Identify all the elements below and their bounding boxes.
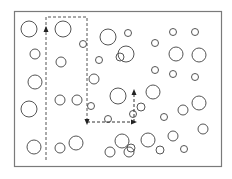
particle-diagram — [0, 0, 232, 179]
